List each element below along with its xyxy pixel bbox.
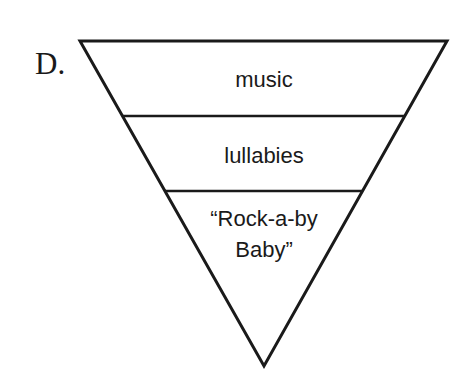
inverted-triangle-diagram: music lullabies “Rock-a-by Baby”	[0, 0, 459, 378]
level-3-text-line1: “Rock-a-by	[210, 206, 318, 231]
level-2-text: lullabies	[224, 143, 304, 168]
level-1-text: music	[235, 67, 292, 92]
level-3-text-line2: Baby”	[235, 237, 292, 262]
